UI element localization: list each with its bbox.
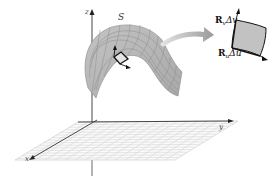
xy-plane-grid bbox=[15, 121, 238, 160]
magnify-arrow bbox=[160, 27, 214, 47]
surface-area-diagram: y x z S bbox=[0, 0, 280, 184]
ru-delta-u-label: RuΔu bbox=[218, 48, 242, 59]
surface-s bbox=[85, 24, 182, 98]
x-axis-label: x bbox=[25, 155, 29, 163]
rv-delta-v-label: RvΔv bbox=[215, 15, 237, 26]
z-axis-label: z bbox=[84, 8, 89, 16]
surface-label: S bbox=[118, 12, 124, 22]
